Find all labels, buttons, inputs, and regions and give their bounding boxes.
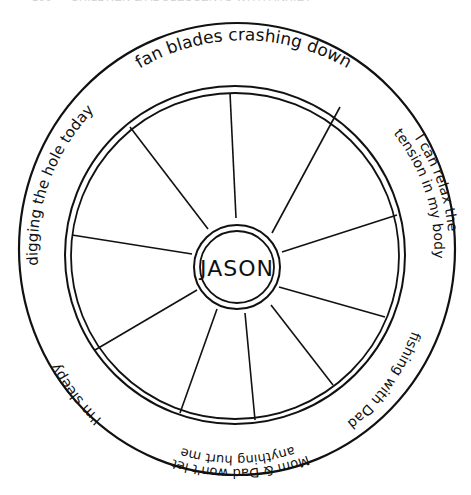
phrase-top-text: fan blades crashing down <box>132 24 356 72</box>
center-label: JASON <box>198 256 274 281</box>
phrase-left-lower-text: I'm sleepy <box>47 361 104 428</box>
spoke <box>130 127 208 229</box>
spoke <box>282 215 397 252</box>
spoke <box>271 305 333 385</box>
phrase-left-upper-text: digging the hole today <box>23 101 97 266</box>
phrase-left-upper: digging the hole today <box>23 101 97 266</box>
spoke <box>272 107 340 233</box>
phrase-right-lower: fishing with Dad <box>345 330 424 432</box>
phrase-top: fan blades crashing down <box>132 24 356 72</box>
spoke <box>230 93 236 218</box>
phrase-left-lower: I'm sleepy <box>47 361 104 428</box>
spoke <box>95 290 197 350</box>
spoke <box>72 235 192 254</box>
spoke <box>279 287 385 317</box>
spoke <box>245 313 255 420</box>
feelings-wheel-diagram: JASON fan blades crashing down I can rel… <box>0 0 471 495</box>
spoke <box>180 309 217 413</box>
phrase-right-lower-text: fishing with Dad <box>345 330 424 432</box>
